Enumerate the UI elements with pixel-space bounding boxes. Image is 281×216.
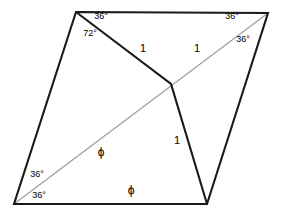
length-label-upper-left: 1 (140, 43, 146, 54)
phi-label-bottom-edge: ϕ (128, 184, 135, 196)
angle-label-bottom-left-upper: 36° (30, 170, 44, 179)
angle-label-top-right-lower: 36° (236, 35, 250, 44)
angle-label-top-left-vertex: 72° (83, 29, 97, 38)
angle-label-top-left-inner: 36° (94, 12, 108, 21)
phi-label-diagonal: ϕ (98, 146, 105, 158)
length-label-lower: 1 (174, 135, 180, 146)
angle-label-top-right-upper: 36° (225, 12, 239, 21)
geometry-diagram: 36° 72° 36° 36° 36° 36° 1 1 1 ϕ ϕ (0, 0, 281, 216)
angle-label-bottom-left-lower: 36° (32, 191, 46, 200)
geometry-canvas (0, 0, 281, 216)
length-label-upper-right: 1 (194, 43, 200, 54)
